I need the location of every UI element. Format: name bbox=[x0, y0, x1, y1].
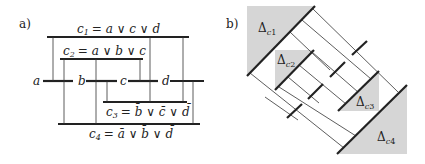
variable-tick bbox=[352, 41, 367, 55]
panel-b: b) Δc1 Δc2 Δc3 Δc4 bbox=[226, 6, 407, 154]
variable-tick bbox=[308, 84, 323, 99]
clause-c3-formula: c3= b̄ ∨ c̄ ∨ d̄ bbox=[106, 103, 192, 120]
panel-b-label: b) bbox=[226, 17, 238, 31]
variable-d-label: d bbox=[162, 74, 170, 88]
panel-a-label: a) bbox=[19, 17, 31, 31]
variable-a-label: a bbox=[33, 74, 40, 88]
panel-a: a) a b c d c1= a ∨ c ∨ d c2= a ∨ b ∨ c c… bbox=[19, 17, 204, 142]
connector bbox=[265, 97, 298, 120]
connector bbox=[279, 87, 356, 136]
figure: a) a b c d c1= a ∨ c ∨ d c2= a ∨ b ∨ c c… bbox=[0, 0, 425, 164]
connector bbox=[288, 77, 319, 103]
clause-c2-formula: c2= a ∨ b ∨ c bbox=[63, 44, 146, 59]
variable-tick bbox=[287, 104, 302, 118]
variable-c-label: c bbox=[120, 74, 127, 88]
clause-c4-formula: c4= ā ∨ b̄ ∨ d̄ bbox=[89, 125, 175, 142]
clause-c1-formula: c1= a ∨ c ∨ d bbox=[77, 22, 160, 37]
variable-b-label: b bbox=[78, 74, 86, 88]
